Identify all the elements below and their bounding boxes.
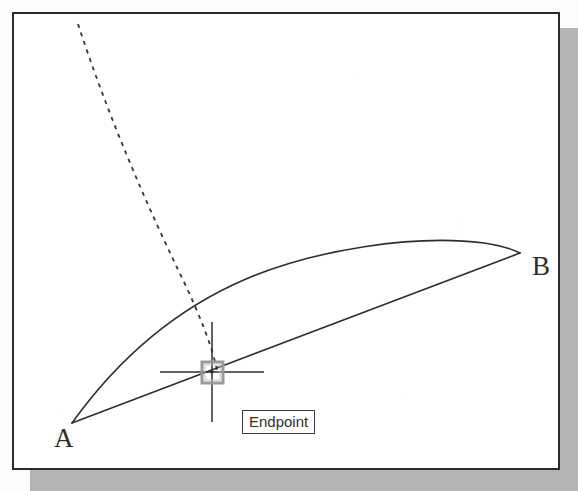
construction-line-dashed <box>78 24 217 370</box>
arc-a-to-b[interactable] <box>72 240 520 423</box>
chord-a-to-b[interactable] <box>72 253 520 423</box>
cad-screenshot: A B Endpoint <box>0 0 578 491</box>
vertex-label-b: B <box>532 253 551 280</box>
vertex-label-a: A <box>54 425 74 452</box>
osnap-endpoint-tooltip: Endpoint <box>242 410 315 434</box>
cad-drawing-canvas[interactable]: A B Endpoint <box>12 12 560 470</box>
drawing-geometry <box>14 14 558 468</box>
snap-point-dot <box>210 370 214 374</box>
